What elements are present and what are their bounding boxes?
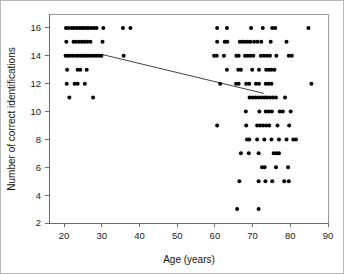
- data-point: [83, 82, 87, 86]
- data-point: [247, 82, 251, 86]
- data-point: [215, 54, 219, 58]
- scatter-plot: 2030405060708090 246810121416 Age (years…: [1, 1, 344, 274]
- data-point: [306, 26, 310, 30]
- data-point: [261, 26, 265, 30]
- x-tick-label: 80: [285, 230, 296, 241]
- data-point: [239, 151, 243, 155]
- figure-container: 2030405060708090 246810121416 Age (years…: [0, 0, 344, 274]
- data-point: [257, 68, 261, 72]
- data-point: [222, 54, 226, 58]
- data-point: [122, 54, 126, 58]
- x-axis-ticks: 2030405060708090: [59, 223, 333, 241]
- data-point: [285, 40, 289, 44]
- data-point: [257, 110, 261, 114]
- data-point: [282, 179, 286, 183]
- y-axis-ticks: 246810121416: [30, 22, 49, 228]
- data-point: [64, 40, 68, 44]
- data-point: [239, 68, 243, 72]
- data-point: [289, 110, 293, 114]
- data-point: [257, 207, 261, 211]
- data-point: [277, 151, 281, 155]
- data-point: [78, 68, 82, 72]
- data-point: [263, 179, 267, 183]
- data-point: [255, 137, 259, 141]
- x-tick-label: 90: [323, 230, 334, 241]
- y-tick-label: 8: [36, 134, 41, 145]
- data-point: [257, 151, 261, 155]
- data-point: [248, 40, 252, 44]
- data-point: [225, 26, 229, 30]
- data-point: [259, 40, 263, 44]
- data-point: [67, 96, 71, 100]
- y-tick-label: 10: [30, 106, 41, 117]
- data-point: [65, 68, 69, 72]
- regression-trendline: [102, 54, 264, 93]
- data-point: [257, 82, 261, 86]
- plot-frame: [49, 14, 328, 223]
- data-point: [294, 137, 298, 141]
- x-tick-label: 50: [172, 230, 183, 241]
- data-point: [215, 40, 219, 44]
- data-point: [269, 137, 273, 141]
- data-point: [263, 165, 267, 169]
- x-axis-title: Age (years): [163, 254, 215, 265]
- data-point: [85, 68, 89, 72]
- data-point: [225, 68, 229, 72]
- data-point: [244, 123, 248, 127]
- data-point: [128, 26, 132, 30]
- data-point: [225, 40, 229, 44]
- data-point: [237, 54, 241, 58]
- data-point: [247, 151, 251, 155]
- data-point: [215, 26, 219, 30]
- data-point: [237, 82, 241, 86]
- data-point: [256, 40, 260, 44]
- data-point: [235, 207, 239, 211]
- data-point: [88, 40, 92, 44]
- data-point: [273, 26, 277, 30]
- y-tick-label: 4: [36, 190, 41, 201]
- data-point: [237, 179, 241, 183]
- data-point: [281, 110, 285, 114]
- data-point: [247, 137, 251, 141]
- data-point: [309, 82, 313, 86]
- data-point: [285, 137, 289, 141]
- x-tick-label: 30: [96, 230, 107, 241]
- plot-frame-border: [49, 14, 328, 223]
- data-points-layer: [64, 26, 314, 211]
- data-point: [275, 123, 279, 127]
- data-point: [251, 54, 255, 58]
- x-tick-label: 20: [59, 230, 70, 241]
- data-point: [249, 26, 253, 30]
- y-tick-label: 2: [36, 217, 41, 228]
- data-point: [76, 82, 80, 86]
- data-point: [91, 96, 95, 100]
- y-axis-title: Number of correct identifications: [6, 47, 17, 190]
- x-tick-label: 60: [210, 230, 221, 241]
- data-point: [287, 179, 291, 183]
- data-point: [274, 96, 278, 100]
- data-point: [270, 110, 274, 114]
- data-point: [101, 26, 105, 30]
- data-point: [287, 123, 291, 127]
- data-point: [283, 96, 287, 100]
- data-point: [121, 26, 125, 30]
- data-point: [244, 110, 248, 114]
- y-tick-label: 12: [30, 78, 41, 89]
- data-point: [101, 40, 105, 44]
- data-point: [95, 26, 99, 30]
- data-point: [215, 123, 219, 127]
- x-tick-label: 40: [134, 230, 145, 241]
- data-point: [257, 179, 261, 183]
- data-point: [272, 68, 276, 72]
- data-point: [277, 137, 281, 141]
- data-point: [274, 165, 278, 169]
- data-point: [274, 54, 278, 58]
- data-point: [286, 165, 290, 169]
- data-point: [290, 54, 294, 58]
- data-point: [250, 68, 254, 72]
- data-point: [268, 54, 272, 58]
- data-point: [267, 123, 271, 127]
- y-tick-label: 14: [30, 50, 41, 61]
- data-point: [65, 82, 69, 86]
- data-point: [269, 82, 273, 86]
